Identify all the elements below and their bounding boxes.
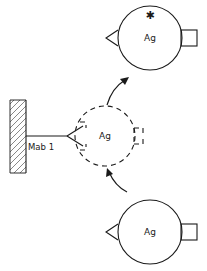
- triangle-epitope-top: [106, 30, 118, 46]
- square-epitope-bottom: [181, 224, 197, 240]
- antibody-label: Mab 1: [28, 142, 54, 152]
- triangle-epitope-bottom: [106, 224, 118, 240]
- wall-hatching: [10, 100, 26, 173]
- antigen-label-top: Ag: [144, 33, 156, 43]
- antigen-label-middle: Ag: [99, 131, 111, 141]
- antigen-label-bottom: Ag: [144, 227, 156, 237]
- asterisk-icon: ✱: [145, 9, 154, 22]
- arrow-from-bottom-complex: [106, 168, 127, 192]
- arrow-to-top-complex: [107, 77, 129, 105]
- solid-phase-wall: [10, 100, 26, 173]
- figure-canvas: Ag ✱ Ag Ag Mab 1: [0, 0, 207, 271]
- square-epitope-top: [181, 30, 197, 46]
